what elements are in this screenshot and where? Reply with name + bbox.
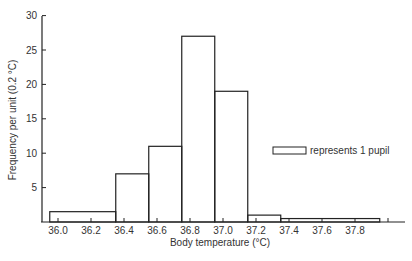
y-axis-title: Frequency per unit (0.2 °C) xyxy=(7,60,18,181)
legend: represents 1 pupil xyxy=(273,145,390,156)
x-tick-label: 36.4 xyxy=(114,225,134,236)
y-tick-label: 5 xyxy=(31,182,37,193)
histogram-bar xyxy=(116,174,149,222)
x-tick-label: 37.4 xyxy=(279,225,299,236)
x-tick-label: 37.6 xyxy=(312,225,332,236)
histogram-bar xyxy=(50,212,116,222)
y-axis: 51015202530 Frequency per unit (0.2 °C) xyxy=(7,10,46,222)
y-tick-label: 15 xyxy=(26,113,38,124)
histogram-bars xyxy=(50,36,380,222)
x-tick-label: 36.2 xyxy=(81,225,101,236)
y-tick-label: 30 xyxy=(26,10,38,21)
x-tick-label: 36.0 xyxy=(48,225,68,236)
legend-swatch xyxy=(273,147,306,154)
x-tick-label: 37.0 xyxy=(213,225,233,236)
y-tick-label: 20 xyxy=(26,79,38,90)
x-tick-label: 37.8 xyxy=(345,225,365,236)
x-tick-label: 36.6 xyxy=(147,225,167,236)
histogram-chart: 51015202530 Frequency per unit (0.2 °C) … xyxy=(0,0,412,261)
histogram-bar xyxy=(215,91,248,222)
legend-label: represents 1 pupil xyxy=(310,145,390,156)
y-tick-label: 10 xyxy=(26,148,38,159)
x-tick-label: 36.8 xyxy=(180,225,200,236)
histogram-bar xyxy=(248,215,281,222)
x-tick-label: 37.2 xyxy=(246,225,266,236)
histogram-bar xyxy=(149,146,182,222)
cropped-caption-fragment xyxy=(0,251,412,261)
histogram-bar xyxy=(281,219,380,222)
y-tick-label: 25 xyxy=(26,45,38,56)
x-axis-title: Body temperature (°C) xyxy=(170,237,270,248)
histogram-bar xyxy=(182,36,215,222)
